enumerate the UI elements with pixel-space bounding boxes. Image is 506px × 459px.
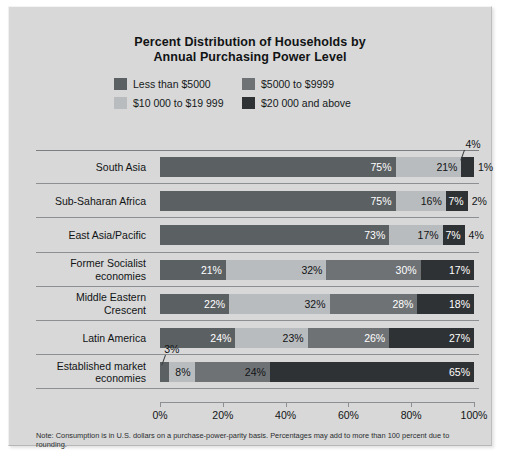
legend-item-label: $10 000 to $19 999 bbox=[133, 97, 224, 109]
chart-row: Latin America24%23%26%27% bbox=[9, 321, 493, 355]
bar-segment: 16% bbox=[396, 191, 446, 211]
bar-segment-value: 28% bbox=[392, 298, 413, 310]
stacked-bar: 73%17%7% bbox=[160, 225, 474, 245]
legend-swatch-icon bbox=[114, 97, 127, 109]
bar-outside-value: 4% bbox=[469, 225, 484, 245]
legend-item: $20 000 and above bbox=[242, 97, 386, 109]
bar-segment-value: 8% bbox=[175, 366, 190, 378]
bar-segment-value: 21% bbox=[201, 264, 222, 276]
bar-segment-value: 7% bbox=[445, 229, 460, 241]
legend-item: $5000 to $9999 bbox=[242, 78, 386, 90]
bar-segment-value: 24% bbox=[245, 366, 266, 378]
x-axis-tick bbox=[286, 402, 287, 407]
chart-title-line-2: Annual Purchasing Power Level bbox=[9, 50, 491, 65]
chart-row: South Asia75%21%1% bbox=[9, 150, 493, 184]
bar-segment: 26% bbox=[308, 328, 390, 348]
chart-note: Note: Consumption is in U.S. dollars on … bbox=[36, 431, 471, 450]
chart-row: Former Socialisteconomies21%32%30%17% bbox=[9, 253, 493, 287]
bar-segment-value: 32% bbox=[305, 298, 326, 310]
x-axis-tick-label: 100% bbox=[461, 409, 488, 421]
bar-segment-value: 17% bbox=[449, 264, 470, 276]
bar-segment-value: 30% bbox=[396, 264, 417, 276]
category-label-text: Middle EasternCrescent bbox=[76, 291, 146, 316]
legend-swatch-icon bbox=[242, 78, 255, 90]
bar-segment-value: 16% bbox=[421, 195, 442, 207]
category-label: Latin America bbox=[36, 321, 153, 355]
bar-segment-value: 18% bbox=[449, 298, 470, 310]
chart-plot-area: South Asia75%21%1%4%Sub-Saharan Africa75… bbox=[9, 150, 493, 402]
chart-legend: Less than $5000$5000 to $9999$10 000 to … bbox=[114, 78, 386, 109]
bar-segment: 30% bbox=[326, 260, 420, 280]
bar-segment-value: 23% bbox=[283, 332, 304, 344]
bar-segment-value: 7% bbox=[449, 195, 464, 207]
category-label-text: East Asia/Pacific bbox=[68, 229, 146, 242]
category-label-text: Sub-Saharan Africa bbox=[55, 195, 146, 208]
legend-item-label: $5000 to $9999 bbox=[261, 78, 334, 90]
x-axis-tick-label: 20% bbox=[212, 409, 233, 421]
bar-segment: 21% bbox=[160, 260, 226, 280]
category-label: Former Socialisteconomies bbox=[36, 253, 153, 287]
bar-segment-value: 26% bbox=[364, 332, 385, 344]
x-axis-tick-label: 80% bbox=[401, 409, 422, 421]
bar-segment: 65% bbox=[270, 362, 474, 382]
bar-segment: 75% bbox=[160, 157, 396, 177]
bar-segment: 7% bbox=[446, 191, 468, 211]
stacked-bar: 22%32%28%18% bbox=[160, 294, 474, 314]
category-label-text: Latin America bbox=[82, 332, 146, 345]
bar-segment: 27% bbox=[389, 328, 474, 348]
category-label-text: Established marketeconomies bbox=[57, 360, 146, 385]
category-label: Established marketeconomies bbox=[36, 355, 153, 389]
category-label: Sub-Saharan Africa bbox=[36, 184, 153, 218]
bar-segment-value: 27% bbox=[449, 332, 470, 344]
category-label: Middle EasternCrescent bbox=[36, 287, 153, 321]
bar-segment: 32% bbox=[226, 260, 326, 280]
x-axis-line bbox=[160, 402, 474, 403]
x-axis-tick bbox=[411, 402, 412, 407]
x-axis-tick bbox=[348, 402, 349, 407]
x-axis-tick bbox=[160, 402, 161, 407]
x-axis-tick-label: 60% bbox=[338, 409, 359, 421]
stacked-bar: 75%16%7% bbox=[160, 191, 474, 211]
bar-segment-value: 32% bbox=[301, 264, 322, 276]
chart-row: Sub-Saharan Africa75%16%7%2% bbox=[9, 184, 493, 218]
x-axis-tick bbox=[474, 402, 475, 407]
bar-segment: 21% bbox=[396, 157, 462, 177]
chart-row: East Asia/Pacific73%17%7%4% bbox=[9, 218, 493, 252]
legend-item-label: $20 000 and above bbox=[261, 97, 351, 109]
bar-segment: 18% bbox=[417, 294, 474, 314]
bar-outside-value: 2% bbox=[472, 191, 487, 211]
category-label-text: South Asia bbox=[96, 161, 146, 174]
legend-swatch-icon bbox=[242, 97, 255, 109]
bar-segment-value: 21% bbox=[436, 161, 457, 173]
chart-inner: Percent Distribution of Households by An… bbox=[9, 7, 491, 445]
chart-panel: Percent Distribution of Households by An… bbox=[8, 6, 492, 446]
bar-segment-value: 73% bbox=[364, 229, 385, 241]
x-axis-tick bbox=[223, 402, 224, 407]
row-separator bbox=[36, 388, 479, 389]
legend-item: $10 000 to $19 999 bbox=[114, 97, 242, 109]
bar-segment-value: 75% bbox=[370, 161, 391, 173]
chart-title: Percent Distribution of Households by An… bbox=[9, 7, 491, 65]
stacked-bar: 24%23%26%27% bbox=[160, 328, 474, 348]
bar-segment: 24% bbox=[195, 362, 270, 382]
bar-segment-value: 24% bbox=[210, 332, 231, 344]
chart-row: Established marketeconomies8%24%65% bbox=[9, 355, 493, 389]
stacked-bar: 75%21% bbox=[160, 157, 474, 177]
bar-segment: 73% bbox=[160, 225, 389, 245]
category-label-text: Former Socialisteconomies bbox=[70, 257, 146, 282]
bar-segment: 17% bbox=[421, 260, 474, 280]
callout-label: 4% bbox=[465, 138, 480, 150]
x-axis-tick-label: 40% bbox=[275, 409, 296, 421]
bar-segment: 7% bbox=[443, 225, 465, 245]
bar-segment: 17% bbox=[389, 225, 442, 245]
bar-segment: 75% bbox=[160, 191, 396, 211]
bar-segment: 32% bbox=[229, 294, 329, 314]
bar-segment-value: 65% bbox=[449, 366, 470, 378]
stacked-bar: 21%32%30%17% bbox=[160, 260, 474, 280]
category-label: East Asia/Pacific bbox=[36, 218, 153, 252]
callout-label: 3% bbox=[164, 343, 179, 355]
legend-swatch-icon bbox=[114, 78, 127, 90]
bar-segment-value: 17% bbox=[418, 229, 439, 241]
bar-segment-value: 75% bbox=[370, 195, 391, 207]
chart-row: Middle EasternCrescent22%32%28%18% bbox=[9, 287, 493, 321]
